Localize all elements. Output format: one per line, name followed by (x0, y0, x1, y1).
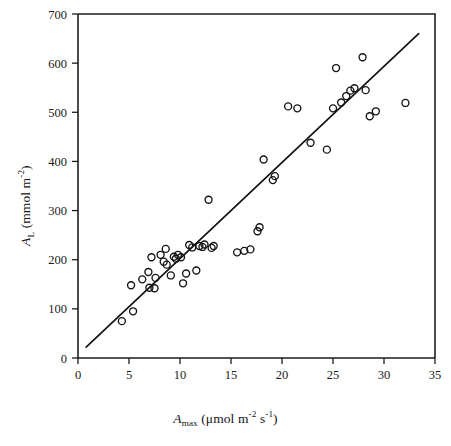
x-tick-label: 35 (429, 368, 442, 382)
x-axis-title: Amax (μmol m-2 s-1) (0, 409, 451, 428)
y-tick-label: 500 (48, 106, 67, 120)
y-axis-ticks: 0100200300400500600700 (48, 8, 78, 366)
data-point (234, 249, 241, 256)
data-point (366, 113, 373, 120)
data-point (362, 87, 369, 94)
y-tick-label: 100 (48, 302, 67, 316)
data-point (183, 270, 190, 277)
data-point (338, 99, 345, 106)
data-point (139, 276, 146, 283)
data-point (193, 267, 200, 274)
y-tick-label: 700 (48, 8, 67, 22)
y-tick-label: 300 (48, 204, 67, 218)
x-tick-label: 0 (75, 368, 81, 382)
x-axis-units-exponent-2: -1 (265, 409, 273, 419)
data-point (162, 245, 169, 252)
x-tick-label: 20 (276, 368, 289, 382)
data-point (145, 269, 152, 276)
data-point (157, 251, 164, 258)
data-points-group (118, 54, 409, 325)
data-point (180, 280, 187, 287)
data-point (167, 272, 174, 279)
scatter-plot-figure: 05101520253035 0100200300400500600700 Am… (0, 0, 451, 446)
data-point (285, 103, 292, 110)
data-point (128, 282, 135, 289)
y-axis-symbol: A (18, 238, 33, 246)
data-point (359, 54, 366, 61)
data-point (148, 254, 155, 261)
data-point (372, 108, 379, 115)
data-point (323, 146, 330, 153)
x-tick-label: 25 (327, 368, 340, 382)
x-axis-subscript: max (182, 418, 198, 428)
data-point (402, 99, 409, 106)
x-axis-units-mid: s (256, 411, 265, 426)
data-point (205, 196, 212, 203)
x-tick-label: 5 (126, 368, 132, 382)
y-tick-label: 400 (48, 155, 67, 169)
data-point (330, 105, 337, 112)
x-axis-ticks: 05101520253035 (75, 358, 441, 382)
data-point (152, 274, 159, 281)
x-axis-units-close: ) (273, 411, 278, 426)
x-tick-label: 30 (378, 368, 391, 382)
data-point (130, 308, 137, 315)
regression-line (86, 34, 419, 348)
data-point (260, 156, 267, 163)
x-tick-label: 10 (174, 368, 187, 382)
y-axis-units-open: (mmol m (18, 178, 33, 232)
data-point (151, 285, 158, 292)
x-tick-label: 15 (225, 368, 238, 382)
data-point (118, 318, 125, 325)
plot-canvas: 05101520253035 0100200300400500600700 (0, 0, 451, 446)
y-tick-label: 0 (61, 352, 67, 366)
regression-line-group (86, 34, 419, 348)
data-point (307, 139, 314, 146)
y-axis-units-exponent-1: -2 (16, 170, 26, 178)
x-axis-units-open: ( (198, 411, 206, 426)
y-axis-subscript: L (26, 232, 36, 238)
y-tick-label: 200 (48, 253, 67, 267)
x-axis-symbol: A (173, 411, 181, 426)
x-axis-units-main: mol m (213, 411, 248, 426)
data-point (333, 65, 340, 72)
y-axis-units-close: ) (18, 165, 33, 170)
data-point (294, 105, 301, 112)
y-axis-title: AL (mmol m-2) (16, 96, 35, 316)
y-tick-label: 600 (48, 57, 67, 71)
